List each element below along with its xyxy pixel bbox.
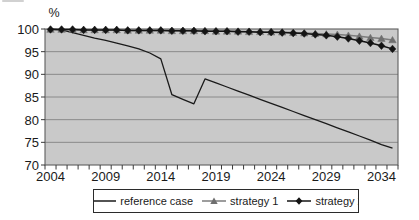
legend-sample-strategy-2 [287,196,311,206]
legend-sample-reference-case [93,196,116,206]
y-axis-label: 80 [25,113,39,128]
y-axis-label: 100 [17,22,39,37]
x-axis-label: 2024 [257,169,286,184]
chart-legend: reference casestrategy 1strategy 2 [93,189,359,213]
x-axis-label: 2029 [312,169,341,184]
y-axis-label: 95 [25,45,39,60]
x-axis-label: 2034 [367,169,396,184]
legend-item-reference-case: reference case [93,195,193,207]
x-axis-label: 2014 [146,169,175,184]
x-axis-label: 2004 [36,169,65,184]
legend-label-strategy-1: strategy 1 [230,195,278,207]
legend-label-strategy-2: strategy 2 [315,195,359,207]
y-axis-label: 85 [25,90,39,105]
y-axis-label: 75 [25,135,39,150]
y-axis-unit-label: % [48,6,59,20]
diamond-marker-icon [296,197,303,205]
legend-item-strategy-2: strategy 2 [287,195,359,207]
chart-figure: 1009590858075702004200920142019202420292… [0,0,419,220]
y-axis-label: 90 [25,67,39,82]
x-axis-label: 2019 [202,169,231,184]
legend-label-reference-case: reference case [120,195,193,207]
legend-item-strategy-1: strategy 1 [202,195,278,207]
x-axis-label: 2009 [91,169,120,184]
chart-svg: 1009590858075702004200920142019202420292… [0,0,419,220]
legend-sample-strategy-1 [202,196,226,206]
